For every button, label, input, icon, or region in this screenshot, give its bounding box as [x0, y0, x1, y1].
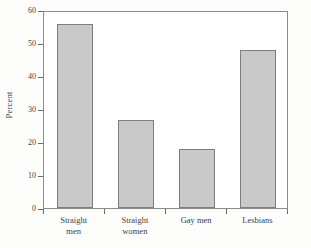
x-label-line2: women: [104, 226, 165, 237]
y-tick-label: 0: [16, 205, 36, 213]
x-tick-mark: [226, 209, 227, 214]
bar-slot-straight-men: [44, 12, 105, 208]
x-label-line1: Straight: [121, 215, 148, 225]
y-tick-label: 30: [16, 106, 36, 114]
y-tick-label: 20: [16, 139, 36, 147]
x-axis-category-labels: Straight men Straight women Gay men Lesb…: [43, 215, 288, 248]
x-label-straight-women: Straight women: [104, 215, 165, 237]
y-tick-label: 10: [16, 172, 36, 180]
bar-gay-men[interactable]: [179, 149, 215, 208]
bar-slot-lesbians: [228, 12, 289, 208]
bar-lesbians[interactable]: [240, 50, 276, 208]
x-tick-mark: [104, 209, 105, 214]
x-label-gay-men: Gay men: [166, 215, 227, 226]
x-label-line2: men: [43, 226, 104, 237]
bar-slot-straight-women: [105, 12, 166, 208]
y-tick-label: 50: [16, 40, 36, 48]
x-label-line1: Lesbians: [242, 215, 272, 225]
bars-container: [44, 12, 287, 208]
x-tick-mark: [287, 209, 288, 214]
bar-slot-gay-men: [167, 12, 228, 208]
x-label-line1: Gay men: [181, 215, 212, 225]
y-tick-label: 60: [16, 7, 36, 15]
x-label-straight-men: Straight men: [43, 215, 104, 237]
plot-area: [43, 11, 288, 209]
x-tick-mark: [165, 209, 166, 214]
y-tick-label: 40: [16, 73, 36, 81]
y-axis-title-text: Percent: [4, 92, 14, 119]
bar-straight-women[interactable]: [118, 120, 154, 208]
x-label-lesbians: Lesbians: [227, 215, 288, 226]
x-label-line1: Straight: [60, 215, 87, 225]
y-axis-tick-labels: 60 50 40 30 20 10 0: [14, 0, 36, 248]
x-tick-mark: [43, 209, 44, 214]
bar-chart-figure: Percent 60 50 40 30 20 10 0: [0, 0, 311, 248]
bar-straight-men[interactable]: [57, 24, 93, 208]
